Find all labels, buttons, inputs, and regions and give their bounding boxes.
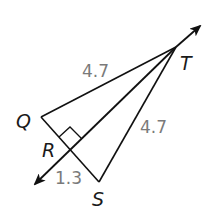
point-label-t: T xyxy=(180,52,193,74)
length-label-rs: 1.3 xyxy=(55,168,82,188)
geometry-diagram: 4.7 4.7 1.3 T Q R S xyxy=(0,0,209,222)
line-tr xyxy=(176,26,200,47)
length-label-tq: 4.7 xyxy=(82,61,109,81)
point-label-s: S xyxy=(92,188,104,210)
length-label-ts: 4.7 xyxy=(140,117,167,137)
point-label-q: Q xyxy=(16,110,31,132)
right-angle-marker xyxy=(59,127,82,139)
point-label-r: R xyxy=(42,139,55,161)
